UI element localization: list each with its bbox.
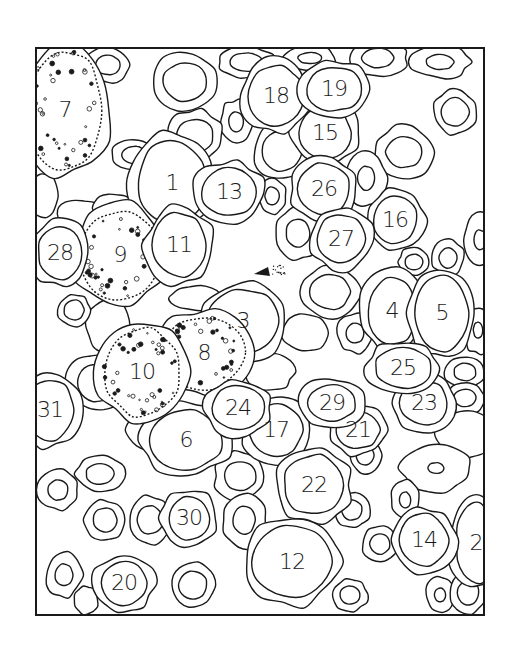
cell-unlabeled <box>409 46 473 79</box>
cell-label-13: 13 <box>216 181 242 203</box>
cell-label-7: 7 <box>59 99 72 121</box>
cell-label-14: 14 <box>411 529 437 551</box>
cell-unlabeled <box>333 579 369 612</box>
cell-label-15: 15 <box>312 122 338 144</box>
cell-label-9: 9 <box>114 244 127 266</box>
cell-unlabeled <box>172 562 216 607</box>
cell-label-27: 27 <box>328 228 354 250</box>
cell-diagram: 1234567891011121314151617181920212223242… <box>0 0 514 655</box>
cell-label-17: 17 <box>263 419 289 441</box>
cell-label-21: 21 <box>345 419 371 441</box>
cell-label-28: 28 <box>47 242 73 264</box>
cell-label-22: 22 <box>301 474 327 496</box>
cell-label-26: 26 <box>311 178 337 200</box>
cell-label-23: 23 <box>411 392 437 414</box>
cell-label-30: 30 <box>176 507 202 529</box>
cell-label-5: 5 <box>436 302 449 324</box>
cell-label-25: 25 <box>390 357 416 379</box>
cell-label-12: 12 <box>279 551 305 573</box>
cell-label-6: 6 <box>180 429 193 451</box>
cell-drawing <box>0 0 514 655</box>
cell-label-31: 31 <box>37 399 63 421</box>
cell-label-20: 20 <box>111 572 137 594</box>
cell-unlabeled <box>57 295 90 327</box>
cell-unlabeled <box>83 499 125 540</box>
cell-label-2: 2 <box>470 532 483 554</box>
cell-unlabeled <box>464 212 497 266</box>
cell-unlabeled <box>36 469 77 511</box>
cell-label-1: 1 <box>166 172 179 194</box>
cell-label-11: 11 <box>166 234 192 256</box>
cell-label-3: 3 <box>237 310 250 332</box>
cell-unlabeled <box>154 52 218 111</box>
cell-unlabeled <box>74 455 125 491</box>
cell-unlabeled <box>29 174 58 218</box>
cell-label-8: 8 <box>198 342 211 364</box>
cell-unlabeled <box>300 265 362 319</box>
cell-unlabeled <box>281 314 328 351</box>
cell-unlabeled <box>434 89 477 136</box>
cell-label-18: 18 <box>263 85 289 107</box>
cell-label-16: 16 <box>382 209 408 231</box>
cell-label-19: 19 <box>321 78 347 100</box>
cell-label-24: 24 <box>225 397 251 419</box>
cell-label-29: 29 <box>319 392 345 414</box>
arrow-marker-icon <box>254 267 270 276</box>
cell-label-10: 10 <box>129 361 155 383</box>
cell-label-4: 4 <box>386 300 399 322</box>
